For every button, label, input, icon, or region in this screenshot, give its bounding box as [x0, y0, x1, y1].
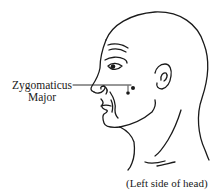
jaw-line: [120, 100, 155, 127]
nostril: [94, 86, 105, 93]
forehead-nose-outline: [91, 40, 106, 92]
mouth: [101, 105, 111, 106]
eyebrow: [105, 57, 127, 63]
electrode-dot-upper: [131, 86, 135, 90]
zygomaticus-major-label: Zygomaticus Major: [11, 79, 73, 103]
electrode-dot-lower: [126, 91, 130, 95]
ear-outline: [155, 64, 171, 89]
nasolabial-fold: [110, 92, 118, 118]
eye-iris: [111, 64, 116, 69]
label-line-1: Zygomaticus: [11, 79, 73, 91]
neck-back-line: [155, 110, 181, 156]
head-diagram: Zygomaticus Major (Left side of head): [0, 0, 224, 195]
eyebrow-lower: [109, 49, 126, 52]
neck-front: [120, 127, 134, 170]
figure-caption: (Left side of head): [126, 177, 208, 189]
label-line-2: Major: [11, 91, 73, 103]
eyebrow-upper: [108, 44, 128, 48]
ear-inner: [161, 73, 167, 81]
clavicle-line-1: [145, 161, 165, 163]
lips-chin-outline: [101, 99, 120, 127]
